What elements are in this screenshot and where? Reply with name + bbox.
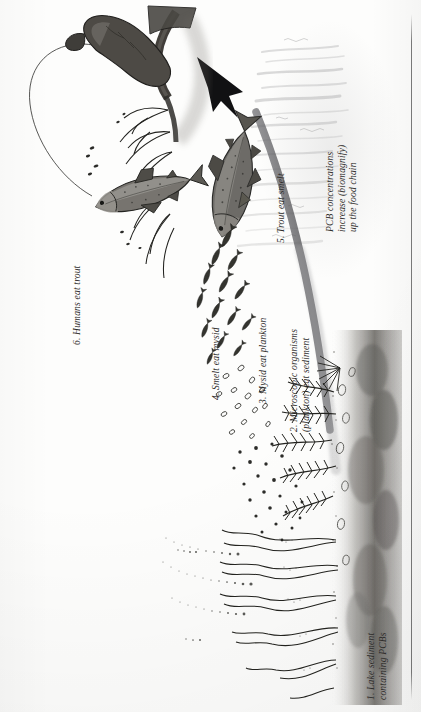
label-biomagnification: PCB concentrations increase (biomagnify)… [325, 52, 360, 232]
fishing-line [29, 44, 134, 196]
label-mysid-eat-plankton: 3. Mysid eat plankton [258, 317, 270, 404]
label-smelt-eat-mysid: 4. Smelt eat mysid [211, 327, 223, 400]
biomagnify-line1: PCB concentrations [325, 52, 337, 232]
current-trails [163, 538, 253, 642]
label-step2-line2: (plankton) eat sediment [301, 302, 313, 432]
page-edge-rule [411, 14, 412, 700]
bank-shading [178, 18, 202, 140]
label-step1-line2: containing PCBs [378, 582, 390, 700]
illustration-page: 6. Humans eat trout 5. Trout eat smelt 4… [0, 0, 421, 712]
label-humans-eat-trout: 6. Humans eat trout [72, 266, 84, 345]
label-trout-eat-smelt: 5. Trout eat smelt [276, 173, 288, 243]
label-lake-sediment: 1. Lake sediment containing PCBs [366, 582, 389, 700]
biomagnify-line3: up the food chain [348, 52, 360, 232]
fishing-hand-and-rod [66, 6, 196, 142]
label-step2-line1: 2. Microscopic organisms [289, 302, 301, 432]
hooked-trout [89, 153, 211, 228]
label-microscopic-organisms: 2. Microscopic organisms (plankton) eat … [289, 302, 312, 432]
aquatic-plants [220, 356, 340, 698]
label-step1-line1: 1. Lake sediment [366, 582, 378, 700]
biomagnify-line2: increase (biomagnify) [337, 52, 349, 232]
plankton-dots [232, 442, 303, 541]
